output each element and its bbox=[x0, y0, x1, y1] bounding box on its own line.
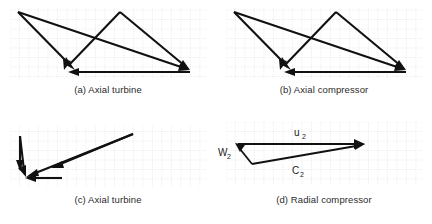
panel-axial-turbine-a: (a) Axial turbine bbox=[0, 0, 216, 112]
panel-a-caption: (a) Axial turbine bbox=[0, 84, 216, 95]
label-u2-text: u bbox=[294, 127, 300, 138]
label-c2-subscript: 2 bbox=[300, 171, 304, 178]
label-u2-subscript: 2 bbox=[302, 133, 306, 140]
panel-a-plot bbox=[0, 0, 216, 90]
panel-radial-compressor-d: u 2 W 2 C 2 (d) Radial compressor bbox=[216, 112, 432, 224]
label-c2-text: C bbox=[292, 165, 299, 176]
label-w2-subscript: 2 bbox=[227, 153, 231, 160]
panel-b-caption: (b) Axial compressor bbox=[216, 84, 432, 95]
panel-axial-turbine-c: (c) Axial turbine bbox=[0, 112, 216, 224]
panel-c-caption: (c) Axial turbine bbox=[0, 194, 216, 205]
panel-b-plot bbox=[216, 0, 432, 90]
panel-c-plot bbox=[0, 112, 216, 202]
panel-d-plot: u 2 W 2 C 2 bbox=[216, 112, 432, 202]
velocity-triangle-figure: (a) Axial turbine bbox=[0, 0, 432, 224]
grid-background bbox=[226, 122, 422, 186]
panel-axial-compressor-b: (b) Axial compressor bbox=[216, 0, 432, 112]
panel-d-caption: (d) Radial compressor bbox=[216, 194, 432, 205]
